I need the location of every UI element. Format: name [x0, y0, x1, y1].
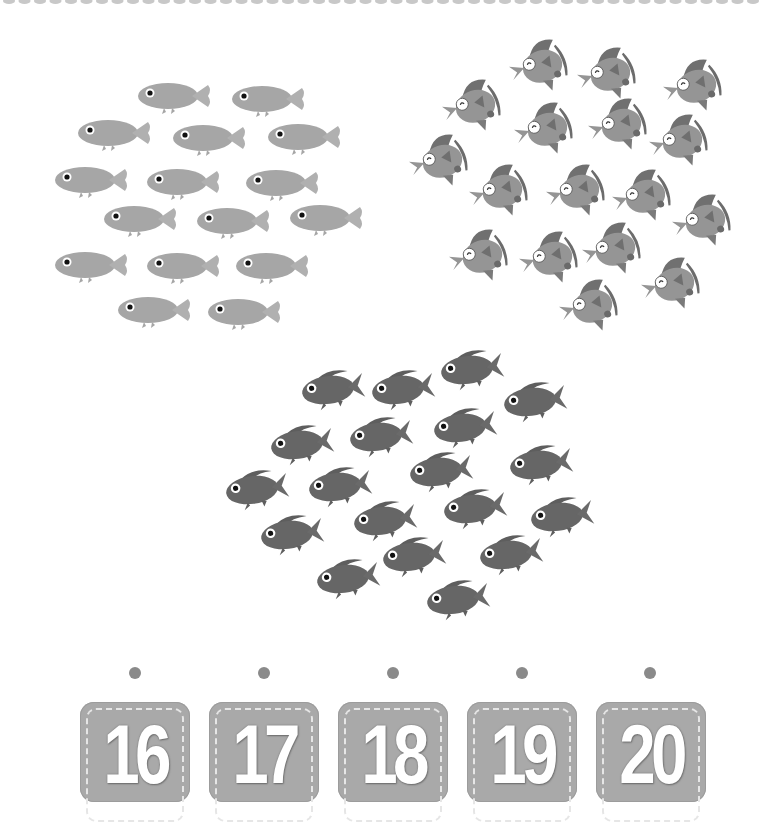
- spiky-fish-icon: [348, 414, 415, 460]
- light-fish-icon: [197, 208, 269, 239]
- light-fish-icon: [55, 252, 127, 283]
- answer-dot-16[interactable]: [129, 667, 141, 679]
- spiky-fish-icon: [315, 556, 382, 602]
- angelfish-icon: [542, 161, 609, 226]
- light-fish-icon: [138, 83, 210, 114]
- answer-dot-19[interactable]: [516, 667, 528, 679]
- answer-dot-17[interactable]: [258, 667, 270, 679]
- answer-number-label: 18: [350, 712, 436, 796]
- light-fish-icon: [78, 120, 150, 151]
- answer-box-16[interactable]: 16: [80, 702, 190, 802]
- spiky-fish-icon: [352, 498, 419, 544]
- angelfish-icon: [445, 226, 512, 291]
- spiky-fish-icon: [381, 534, 448, 580]
- light-fish-icon: [246, 170, 318, 201]
- angelfish-icon: [515, 228, 582, 293]
- light-fish-icon: [173, 125, 245, 156]
- light-fish-icon: [104, 206, 176, 237]
- spiky-fish-icon: [442, 486, 509, 532]
- light-fish-icon: [290, 205, 362, 236]
- spiky-fish-icon: [307, 464, 374, 510]
- answer-box-20[interactable]: 20: [596, 702, 706, 802]
- dark-fish-group: [224, 347, 596, 623]
- spiky-fish-icon: [529, 494, 596, 540]
- angelfish-icon: [505, 36, 572, 101]
- spiky-fish-icon: [425, 577, 492, 623]
- spiky-fish-icon: [508, 442, 575, 488]
- spiky-fish-icon: [432, 405, 499, 451]
- angelfish-icon: [555, 276, 622, 341]
- fish-illustration-area: [0, 0, 761, 650]
- answer-box-18[interactable]: 18: [338, 702, 448, 802]
- answer-dot-18[interactable]: [387, 667, 399, 679]
- spiky-fish-icon: [300, 367, 367, 413]
- angelfish-icon: [608, 166, 675, 231]
- spiky-fish-icon: [478, 532, 545, 578]
- angelfish-icon: [584, 95, 651, 160]
- spiky-fish-icon: [269, 422, 336, 468]
- angelfish-group: [405, 36, 735, 341]
- answer-number-label: 17: [221, 712, 307, 796]
- answer-number-label: 20: [608, 712, 694, 796]
- light-fish-icon: [236, 253, 308, 284]
- answer-dot-20[interactable]: [644, 667, 656, 679]
- answer-box-19[interactable]: 19: [467, 702, 577, 802]
- spiky-fish-icon: [259, 512, 326, 558]
- answer-box-17[interactable]: 17: [209, 702, 319, 802]
- spiky-fish-icon: [439, 347, 506, 393]
- angelfish-icon: [668, 191, 735, 256]
- light-fish-icon: [147, 253, 219, 284]
- spiky-fish-icon: [502, 379, 569, 425]
- spiky-fish-icon: [408, 449, 475, 495]
- light-fish-icon: [232, 86, 304, 117]
- angelfish-icon: [645, 111, 712, 176]
- spiky-fish-icon: [370, 367, 437, 413]
- light-fish-icon: [208, 299, 280, 330]
- light-fish-icon: [55, 167, 127, 198]
- light-fish-icon: [147, 169, 219, 200]
- angelfish-icon: [465, 161, 532, 226]
- light-fish-group: [55, 83, 362, 330]
- light-fish-icon: [118, 297, 190, 328]
- answer-number-label: 16: [92, 712, 178, 796]
- angelfish-icon: [578, 219, 645, 284]
- angelfish-icon: [637, 254, 704, 319]
- light-fish-icon: [268, 124, 340, 155]
- answer-number-label: 19: [479, 712, 565, 796]
- angelfish-icon: [659, 56, 726, 121]
- angelfish-icon: [510, 99, 577, 164]
- angelfish-icon: [438, 76, 505, 141]
- angelfish-icon: [405, 131, 472, 196]
- spiky-fish-icon: [224, 467, 291, 513]
